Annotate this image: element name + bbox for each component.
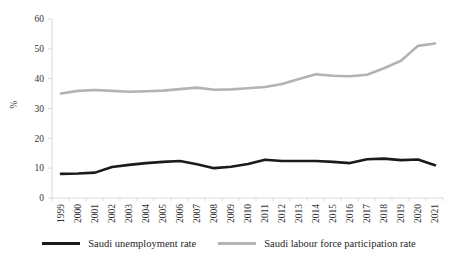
x-tick-label: 2006 [175, 204, 185, 223]
x-tick-label: 2002 [107, 204, 117, 223]
x-tick-label: 2003 [124, 204, 134, 223]
x-tick-label: 2005 [158, 204, 168, 223]
y-tick-label: 20 [35, 134, 45, 144]
y-tick-label: 0 [39, 193, 44, 203]
x-tick-label: 2008 [209, 204, 219, 223]
participation-line-swatch [218, 242, 256, 245]
x-tick-label: 2021 [430, 204, 440, 223]
x-tick-label: 2000 [73, 204, 83, 223]
y-tick-label: 60 [35, 14, 45, 24]
x-tick-label: 2009 [226, 204, 236, 223]
legend-entry-participation: Saudi labour force participation rate [218, 238, 416, 249]
chart-figure: 0102030405060%19992000200120022003200420… [0, 0, 458, 269]
x-tick-label: 2007 [192, 204, 202, 223]
y-tick-label: 30 [35, 104, 45, 114]
legend-label-participation: Saudi labour force participation rate [264, 238, 416, 249]
x-tick-label: 2018 [379, 204, 389, 223]
x-tick-label: 2017 [362, 204, 372, 223]
legend-label-unemployment: Saudi unemployment rate [88, 238, 196, 249]
labour-force-participation-line [61, 43, 435, 93]
y-tick-label: 10 [35, 163, 45, 173]
x-tick-label: 2016 [345, 204, 355, 223]
x-tick-label: 2001 [90, 204, 100, 223]
x-tick-label: 2004 [141, 204, 151, 223]
chart-legend: Saudi unemployment rate Saudi labour for… [0, 238, 458, 249]
chart-svg: 0102030405060%19992000200120022003200420… [0, 0, 458, 238]
x-tick-label: 2020 [413, 204, 423, 223]
unemployment-line-swatch [42, 242, 80, 245]
y-tick-label: 50 [35, 44, 45, 54]
x-tick-label: 1999 [56, 204, 66, 223]
x-tick-label: 2015 [328, 204, 338, 223]
x-tick-label: 2019 [396, 204, 406, 223]
legend-entry-unemployment: Saudi unemployment rate [42, 238, 196, 249]
unemployment-rate-line [61, 159, 435, 174]
y-tick-label: 40 [35, 74, 45, 84]
x-tick-label: 2014 [311, 204, 321, 223]
x-tick-label: 2012 [277, 204, 287, 223]
x-tick-label: 2010 [243, 204, 253, 223]
y-axis-title: % [9, 100, 19, 108]
x-tick-label: 2011 [260, 204, 270, 223]
x-tick-label: 2013 [294, 204, 304, 223]
